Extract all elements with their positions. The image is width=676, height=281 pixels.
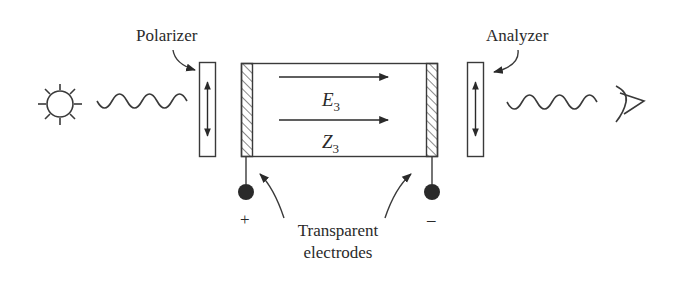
output-wave-icon	[507, 95, 597, 109]
right-electrode-pointer-arrow	[385, 174, 411, 218]
left-electrode	[242, 64, 253, 157]
polarizer-pointer-arrow	[173, 50, 195, 70]
analyzer-pointer-arrow	[494, 50, 518, 72]
positive-terminal	[238, 157, 254, 200]
polarizer-label: Polarizer	[136, 26, 198, 45]
field-label: E3	[321, 89, 340, 114]
right-electrode	[427, 64, 438, 157]
diagram-canvas: Polarizer E3 Z3 + – Transparent electrod…	[0, 0, 676, 281]
negative-terminal	[424, 157, 440, 200]
crystal-cell: E3 Z3	[242, 64, 438, 157]
polarizer	[200, 63, 216, 157]
positive-sign: +	[240, 210, 250, 229]
eye-icon	[616, 86, 644, 122]
axis-label: Z3	[322, 131, 339, 156]
electrodes-label-line1: Transparent	[298, 221, 379, 240]
sun-icon	[38, 84, 82, 125]
negative-sign: –	[426, 210, 436, 229]
input-wave-icon	[97, 94, 187, 108]
analyzer-label: Analyzer	[486, 26, 549, 45]
electrodes-label-line2: electrodes	[304, 243, 373, 262]
left-electrode-pointer-arrow	[260, 174, 284, 218]
analyzer	[468, 63, 484, 157]
